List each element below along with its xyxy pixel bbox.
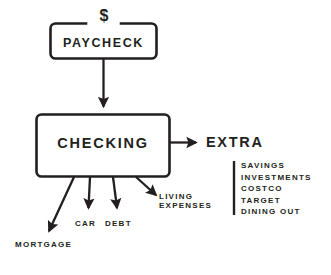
connector-checking-to-living-expenses	[136, 177, 156, 195]
extra-node-label: EXTRA	[206, 134, 264, 151]
outflow-label-living-expenses-line1: LIVING	[159, 192, 212, 201]
outflow-label-living-expenses: LIVING EXPENSES	[159, 192, 212, 211]
outflow-label-mortgage: MORTGAGE	[15, 240, 72, 249]
outflow-label-living-expenses-line2: EXPENSES	[159, 201, 212, 210]
extra-items-list: SAVINGS INVESTMENTS COSTCO TARGET DINING…	[241, 160, 312, 218]
extra-item-dining-out: DINING OUT	[241, 206, 312, 218]
connector-checking-to-car	[89, 177, 91, 208]
checking-node-label: CHECKING	[36, 135, 170, 152]
connector-checking-to-debt	[113, 177, 117, 208]
outflow-label-debt: DEBT	[105, 219, 132, 228]
dollar-sign-icon: $	[88, 7, 120, 26]
budget-flow-diagram: $ PAYCHECK CHECKING EXTRA MORTGAGE CAR D…	[0, 0, 331, 275]
connector-checking-to-mortgage	[49, 177, 74, 231]
extra-item-target: TARGET	[241, 195, 312, 207]
outflow-label-car: CAR	[75, 219, 96, 228]
paycheck-node-label: PAYCHECK	[50, 36, 157, 51]
extra-item-investments: INVESTMENTS	[241, 172, 312, 184]
extra-item-costco: COSTCO	[241, 183, 312, 195]
extra-item-savings: SAVINGS	[241, 160, 312, 172]
